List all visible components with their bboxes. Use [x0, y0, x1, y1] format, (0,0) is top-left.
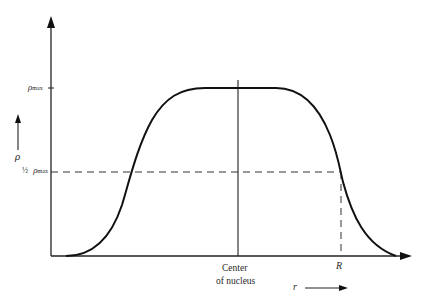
r-right-arrow-icon: [339, 285, 348, 291]
max-subscript: max: [32, 85, 42, 91]
density-diagram: ρmax ½ ρmax ρ Center of nucleus R r: [0, 0, 423, 304]
rho-axis-label: ρ: [15, 150, 20, 162]
center-label-line2: of nucleus: [216, 276, 255, 286]
max-subscript: max: [38, 168, 48, 174]
half-rho-max-label: ½ ρmax: [22, 165, 48, 175]
x-axis-arrow-icon: [400, 252, 412, 260]
rho-up-arrow-icon: [15, 114, 21, 123]
r-axis-label: r: [293, 281, 297, 292]
center-label-line1: Center: [222, 263, 247, 273]
diagram-canvas: [0, 0, 423, 304]
rho-max-label: ρmax: [28, 82, 43, 92]
y-axis-arrow-icon: [47, 16, 55, 28]
half-fraction: ½: [22, 166, 28, 175]
radius-label: R: [336, 260, 342, 271]
